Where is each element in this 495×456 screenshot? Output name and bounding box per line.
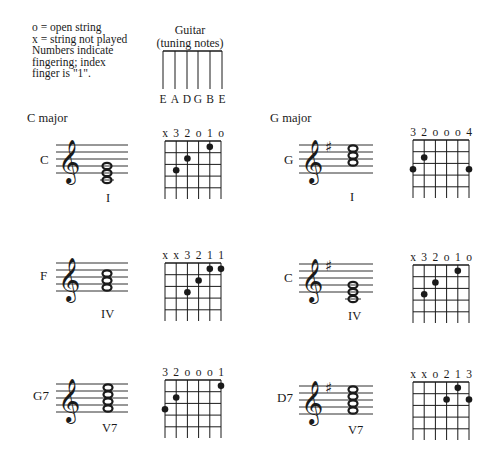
svg-text:x: x: [162, 127, 168, 139]
tuning-string-label: D: [183, 93, 191, 105]
svg-text:o: o: [455, 126, 461, 138]
string-markers: x 3 2 o 1 o: [162, 127, 224, 139]
treble-clef-icon: 𝄞: [58, 378, 80, 424]
svg-text:o: o: [433, 368, 439, 380]
staff-g-major-I: 𝄞 ♯: [299, 138, 373, 185]
svg-text:x: x: [410, 251, 416, 263]
svg-text:3: 3: [466, 368, 472, 380]
fretboard-g: 3 2 o o o 4: [410, 126, 473, 198]
notation-graphics: E A D G B E 𝄞 𝄞: [0, 0, 495, 456]
finger-dots: [162, 383, 225, 413]
svg-text:1: 1: [218, 366, 224, 378]
fretboard-f: x x 3 2 1 1: [162, 249, 224, 321]
svg-text:x: x: [162, 249, 168, 261]
svg-text:o: o: [466, 251, 472, 263]
svg-text:o: o: [444, 126, 450, 138]
sharp-icon: ♯: [325, 379, 332, 397]
svg-text:2: 2: [173, 366, 179, 378]
svg-text:1: 1: [455, 251, 461, 263]
svg-text:3: 3: [410, 126, 416, 138]
svg-text:4: 4: [466, 126, 472, 138]
tuning-string-label: B: [206, 93, 214, 105]
tuning-diagram: [163, 51, 222, 89]
finger-dots: [421, 268, 461, 298]
chord-notes: [104, 384, 113, 411]
treble-clef-icon: 𝄞: [58, 139, 80, 185]
svg-text:x: x: [410, 368, 416, 380]
fretboard-c-in-g: x 3 2 o 1 o: [410, 251, 472, 323]
chord-notes: [103, 270, 112, 290]
tuning-labels: E A D G B E: [159, 93, 225, 105]
tuning-string-label: E: [159, 93, 166, 105]
chord-notes: [349, 145, 358, 165]
treble-clef-icon: 𝄞: [301, 139, 323, 185]
svg-text:o: o: [196, 366, 202, 378]
svg-text:1: 1: [218, 249, 224, 261]
svg-text:2: 2: [433, 251, 439, 263]
staff-g-major-V7: 𝄞 ♯: [299, 379, 373, 426]
svg-text:2: 2: [444, 368, 450, 380]
treble-clef-icon: 𝄞: [301, 380, 323, 426]
svg-text:2: 2: [185, 127, 191, 139]
svg-text:o: o: [196, 127, 202, 139]
svg-text:o: o: [218, 127, 224, 139]
svg-text:1: 1: [455, 368, 461, 380]
svg-text:3: 3: [421, 251, 427, 263]
tuning-string-label: G: [194, 93, 202, 105]
svg-text:x: x: [173, 249, 179, 261]
svg-text:3: 3: [173, 127, 179, 139]
svg-text:o: o: [207, 366, 213, 378]
tuning-string-label: A: [171, 93, 180, 105]
sharp-icon: ♯: [325, 138, 332, 156]
svg-text:o: o: [185, 366, 191, 378]
treble-clef-icon: 𝄞: [301, 258, 323, 304]
treble-clef-icon: 𝄞: [58, 257, 80, 303]
string-markers: 3 2 o o o 1: [162, 366, 224, 378]
svg-text:1: 1: [207, 127, 213, 139]
staff-c-major-V7: 𝄞: [56, 378, 128, 424]
string-markers: x x o 2 1 3: [410, 368, 472, 380]
string-markers: 3 2 o o o 4: [410, 126, 472, 138]
svg-text:o: o: [433, 126, 439, 138]
string-markers: x x 3 2 1 1: [162, 249, 224, 261]
svg-text:1: 1: [207, 249, 213, 261]
svg-text:2: 2: [196, 249, 202, 261]
tuning-string-label: E: [218, 93, 225, 105]
fretboard-g7: 3 2 o o o 1: [162, 366, 225, 438]
svg-text:2: 2: [421, 126, 427, 138]
fretboard-d7: x x o 2 1 3: [410, 368, 472, 440]
svg-text:3: 3: [185, 249, 191, 261]
chord-notes: [349, 386, 358, 413]
finger-dots: [184, 266, 224, 296]
staff-c-major-I: 𝄞: [56, 139, 128, 185]
sharp-icon: ♯: [325, 257, 332, 275]
staff-g-major-IV: 𝄞 ♯: [299, 257, 373, 304]
staff-c-major-IV: 𝄞: [56, 257, 128, 303]
fretboard-c: x 3 2 o 1 o: [162, 127, 224, 199]
finger-dots: [173, 144, 213, 174]
svg-text:3: 3: [162, 366, 168, 378]
svg-text:x: x: [421, 368, 427, 380]
svg-text:o: o: [444, 251, 450, 263]
string-markers: x 3 2 o 1 o: [410, 251, 472, 263]
